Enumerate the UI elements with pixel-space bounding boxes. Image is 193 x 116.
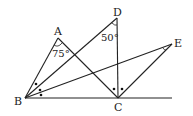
label-b: B	[14, 95, 22, 108]
angle-mark-dot-c2	[121, 88, 124, 91]
segment-be	[25, 44, 172, 98]
segment-dc	[117, 18, 118, 98]
label-a: A	[53, 25, 63, 38]
geometry-figure: A B C D E 75° 50°	[0, 0, 193, 116]
angle-mark-dot-c1	[113, 88, 116, 91]
angle-mark-dot-b1	[35, 83, 38, 86]
segment-bd	[25, 18, 117, 98]
segment-ac	[58, 38, 118, 98]
segment-ec	[118, 44, 172, 98]
angle-mark-dot-b3	[40, 94, 43, 97]
label-e: E	[174, 37, 182, 50]
angle-mark-dot-b2	[39, 89, 42, 92]
angle-arc-d	[112, 23, 117, 25]
segment-ba	[25, 38, 58, 98]
angle-label-a: 75°	[52, 48, 70, 59]
angle-arc-e	[163, 48, 166, 50]
angle-label-d: 50°	[101, 32, 119, 43]
label-d: D	[113, 6, 122, 19]
label-c: C	[114, 101, 122, 114]
